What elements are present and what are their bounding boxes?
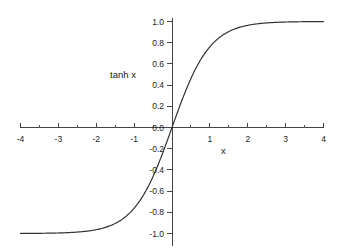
x-tick-label: -2 bbox=[92, 134, 100, 144]
x-axis-label: x bbox=[221, 145, 226, 156]
x-tick-label: 1 bbox=[208, 134, 213, 144]
x-tick-label: 2 bbox=[245, 134, 250, 144]
y-tick-label: -0.6 bbox=[149, 186, 164, 196]
y-tick-label: 0.8 bbox=[152, 38, 164, 48]
y-tick-label: -0.8 bbox=[149, 207, 164, 217]
y-tick-label: -1.0 bbox=[149, 229, 164, 239]
x-tick-label: -4 bbox=[17, 134, 25, 144]
y-tick-label: 0.6 bbox=[152, 59, 164, 69]
y-tick-label: 0.2 bbox=[152, 101, 164, 111]
y-tick-label: -0.2 bbox=[149, 144, 164, 154]
x-tick-label: -3 bbox=[55, 134, 63, 144]
y-tick-label: 1.0 bbox=[152, 17, 164, 27]
y-axis-label: tanh x bbox=[110, 69, 136, 80]
y-tick-label: 0.0 bbox=[152, 123, 164, 133]
y-tick-label: 0.4 bbox=[152, 80, 164, 90]
x-tick-label: 4 bbox=[321, 134, 326, 144]
x-tick-label: -1 bbox=[130, 134, 138, 144]
figure-background bbox=[0, 0, 342, 252]
plot-canvas: -4-3-2-11234 1.00.80.60.40.20.0-0.2-0.4-… bbox=[0, 0, 342, 252]
x-tick-label: 3 bbox=[283, 134, 288, 144]
tanh-plot-figure: -4-3-2-11234 1.00.80.60.40.20.0-0.2-0.4-… bbox=[0, 0, 342, 252]
